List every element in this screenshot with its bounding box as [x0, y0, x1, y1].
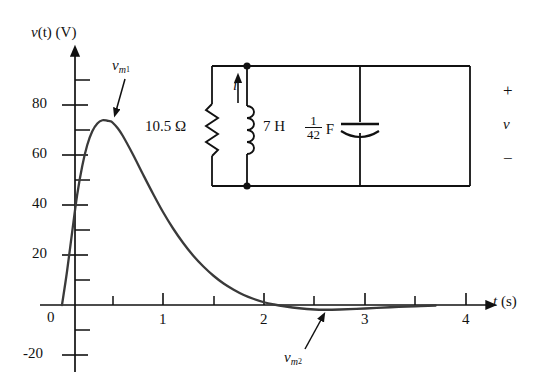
voltage-plus-sign: + [503, 82, 513, 99]
y-tick-label-0: 0 [47, 310, 55, 325]
circuit-node-top [243, 62, 250, 69]
y-tick-label-neg20: -20 [23, 346, 43, 361]
inductor-symbol [247, 106, 254, 154]
min-annotation-arrow [305, 318, 322, 349]
data-curve-vt [62, 120, 436, 310]
figure-rlc-step-response: v(t) (V) t (s) 80 60 40 20 0 -20 1 2 3 4… [0, 0, 559, 385]
chart-canvas [0, 0, 559, 385]
y-tick-label-60: 60 [32, 146, 47, 161]
min-annotation-label: vm2 [284, 350, 302, 367]
voltage-minus-sign: − [503, 150, 513, 167]
peak-annotation-arrow [116, 79, 125, 111]
x-tick-label-4: 4 [462, 312, 470, 327]
peak-annotation-label: vm1 [112, 58, 130, 75]
resistor-symbol [206, 104, 218, 156]
y-axis-title: v(t) (V) [31, 25, 76, 40]
circuit-diagram [206, 62, 470, 189]
y-axis [62, 55, 90, 372]
x-tick-label-2: 2 [260, 312, 268, 327]
resistor-label: 10.5 Ω [145, 119, 186, 134]
y-tick-label-40: 40 [32, 196, 47, 211]
current-label-i: i [233, 78, 237, 93]
y-tick-label-20: 20 [32, 246, 47, 261]
y-tick-label-80: 80 [32, 96, 47, 111]
circuit-node-bottom [243, 182, 250, 189]
x-axis-title: t (s) [493, 294, 517, 309]
x-tick-label-3: 3 [361, 312, 369, 327]
capacitor-label: 142 F [305, 114, 334, 142]
x-tick-label-1: 1 [159, 312, 167, 327]
inductor-label: 7 H [263, 119, 285, 134]
voltage-label-v: v [503, 117, 510, 132]
